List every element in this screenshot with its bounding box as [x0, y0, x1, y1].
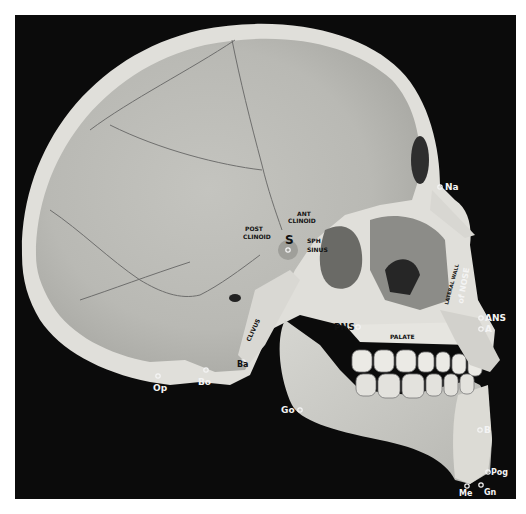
label-bo: Bo	[198, 377, 211, 387]
label-s: S	[285, 233, 294, 247]
label-a: A	[485, 324, 492, 334]
label-ba: Ba	[237, 360, 249, 369]
point-me	[465, 484, 469, 488]
internal-acoustic-meatus	[229, 294, 241, 302]
label-op: Op	[153, 383, 168, 393]
skull-illustration: Na ANS A PNS S Ba Bo Op Go B Pog Gn Me A…	[0, 0, 526, 514]
label-post-clinoid-2: CLINOID	[243, 233, 271, 240]
label-post-clinoid-1: POST	[245, 225, 264, 232]
label-me: Me	[459, 489, 473, 498]
skull-figure: Na ANS A PNS S Ba Bo Op Go B Pog Gn Me A…	[0, 0, 526, 514]
lower-teeth	[356, 374, 474, 398]
label-gn: Gn	[484, 488, 497, 497]
label-na: Na	[445, 182, 459, 192]
label-ant-clinoid-1: ANT	[297, 210, 312, 217]
label-go: Go	[281, 405, 295, 415]
label-ans: ANS	[485, 313, 506, 323]
label-b: B	[484, 425, 491, 435]
label-sph-sinus-1: SPH	[307, 237, 321, 244]
label-pns: PNS	[334, 322, 355, 332]
point-gn	[479, 483, 483, 487]
label-ant-clinoid-2: CLINOID	[288, 217, 316, 224]
label-sph-sinus-2: SINUS	[307, 246, 328, 253]
label-palate: PALATE	[390, 333, 415, 340]
sphenoid-sinus	[320, 226, 362, 289]
upper-teeth	[352, 350, 482, 376]
frontal-sinus	[411, 136, 429, 184]
label-pog: Pog	[491, 468, 508, 477]
